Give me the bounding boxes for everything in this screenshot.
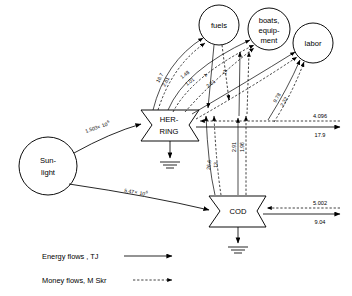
boats-label-line3: ment	[261, 36, 279, 45]
cod-output-money-value: 9.04	[315, 219, 326, 225]
fuels-label: fuels	[211, 21, 227, 30]
flow-boats-mid-money: 2.61	[185, 48, 254, 112]
fuels-in-energy-value: 4	[202, 73, 208, 77]
herring-label-line1: HER-	[160, 115, 179, 124]
sun-herring-times: ×	[96, 123, 101, 130]
cod-labor-money-value: 1.96	[239, 142, 245, 152]
cod-fuels-money-value: 13	[212, 162, 219, 169]
node-labor: labor	[293, 23, 333, 63]
herring-heat-sink-icon	[160, 141, 180, 168]
legend-energy-label: Energy flows , TJ	[42, 252, 99, 261]
flow-boats-vertical	[239, 52, 249, 116]
node-herring: HER- RING	[141, 110, 199, 168]
flow-sun-to-cod: 5.47 × 10 6	[69, 184, 209, 210]
sun-cod-times: ×	[134, 189, 138, 195]
flow-cod-fuels: 26.6 13	[205, 116, 221, 195]
sun-herring-value: 1.503 × 10 6	[84, 118, 111, 134]
legend: Energy flows , TJ Money flows, M Skr	[42, 252, 172, 285]
herring-label-line2: RING	[160, 127, 179, 136]
flow-cod-labor: 9.78 2.32	[268, 60, 304, 122]
herring-output-money-value: 17.9	[315, 132, 326, 138]
flow-cod-output: 5.002 9.04	[263, 200, 340, 225]
cod-boats-energy-value: 2.91	[231, 142, 237, 152]
flow-herring-output: 4.096 17.9	[196, 113, 340, 138]
cod-output-energy-value: 5.002	[313, 200, 327, 206]
flow-cod-boats: 2.91 1.96	[231, 116, 246, 195]
node-boats-equipment: boats, equip- ment	[248, 8, 290, 50]
node-cod: COD	[209, 196, 266, 253]
cod-fuels-energy-value: 26.6	[205, 159, 212, 170]
sunlight-label-line2: light	[41, 168, 56, 177]
node-sunlight: Sun- light	[19, 137, 77, 195]
sunlight-label-line1: Sun-	[40, 156, 57, 165]
node-fuels: fuels	[199, 5, 239, 45]
boats-label-line2: equip-	[258, 26, 280, 35]
sun-cod-exponent: 6	[145, 189, 148, 194]
diagram-canvas: Sun- light HER- RING COD fuels boats,	[0, 0, 352, 296]
legend-money-label: Money flows, M Skr	[42, 276, 107, 285]
labor-label: labor	[305, 39, 322, 48]
cod-heat-sink-icon	[228, 227, 248, 253]
boats-mid-money-value: 2.61	[205, 78, 217, 89]
herring-output-energy-value: 4.096	[313, 113, 327, 119]
fuels-in-money-value: 11	[221, 69, 228, 76]
energy-flow-diagram: Sun- light HER- RING COD fuels boats,	[0, 0, 352, 296]
flow-fuels-to-herring: 4 11	[202, 45, 229, 108]
flow-sun-to-herring: 1.503 × 10 6	[74, 118, 141, 153]
sun-cod-mantissa: 5.47	[124, 187, 135, 195]
sun-herring-exponent: 6	[106, 118, 110, 123]
boats-label-line1: boats,	[259, 16, 280, 25]
cod-label: COD	[230, 207, 247, 216]
